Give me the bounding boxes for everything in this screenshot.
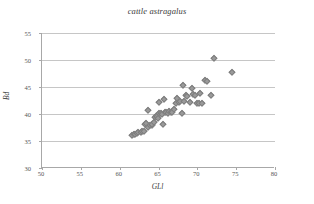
y-tick [39, 87, 42, 88]
scatter-chart: cattle astragalus 303540455055 505560657… [0, 0, 314, 204]
data-point [171, 105, 177, 111]
x-tick-label: 70 [193, 170, 200, 177]
x-tick-label: 50 [38, 170, 45, 177]
y-tick [39, 33, 42, 34]
y-tick [39, 114, 42, 115]
y-tick-label: 35 [25, 138, 32, 145]
y-tick-label: 55 [25, 30, 32, 37]
x-tick-label: 75 [232, 170, 239, 177]
x-tick-label: 60 [115, 170, 122, 177]
gridline [42, 60, 275, 61]
data-point [208, 91, 214, 97]
x-tick-label: 80 [271, 170, 278, 177]
data-point [179, 110, 185, 116]
data-point [197, 90, 203, 96]
gridline [42, 33, 275, 34]
data-point [229, 69, 235, 75]
gridline [42, 141, 275, 142]
y-axis-tick-labels: 303540455055 [0, 33, 37, 168]
y-tick-label: 40 [25, 111, 32, 118]
y-tick [39, 60, 42, 61]
data-point [160, 121, 166, 127]
data-point [186, 98, 192, 104]
chart-title: cattle astragalus [0, 6, 314, 16]
plot-area [41, 33, 274, 168]
gridline [42, 87, 275, 88]
y-tick [39, 168, 42, 169]
x-axis-tick-labels: 50556065707580 [41, 170, 274, 182]
data-point [189, 84, 195, 90]
y-tick-label: 30 [25, 165, 32, 172]
y-tick-label: 50 [25, 57, 32, 64]
x-tick-label: 55 [77, 170, 84, 177]
data-point [145, 106, 151, 112]
y-axis-title: Bd [2, 92, 11, 100]
y-tick-label: 45 [25, 84, 32, 91]
x-axis-title: GLl [41, 182, 274, 191]
x-tick-label: 65 [154, 170, 161, 177]
y-tick [39, 141, 42, 142]
